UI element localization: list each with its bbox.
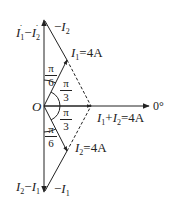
angle-label-pi-3-upper: π3 [60,78,72,103]
phasor-dot: · [34,21,40,30]
label-neg-i2: −I2 [54,20,70,36]
phasor-dot: · [18,21,24,30]
label-origin: O [32,100,41,113]
angle-label-pi-6-lower: π6 [45,124,57,149]
label-neg-i1: −I1 [54,182,70,198]
label-sum: I1+I2=4A [97,111,144,127]
angle-label-pi-3-lower: π3 [60,107,72,132]
angle-arc-lower [51,106,60,120]
label-i2-minus-i1: I2−I1 [16,180,40,196]
label-i2: I2=4A [75,141,107,157]
angle-arc-upper-2 [51,92,60,106]
label-reference: 0° [153,100,164,112]
label-i1: I1=4A [71,46,103,62]
angle-label-pi-6-upper: π6 [45,63,57,88]
